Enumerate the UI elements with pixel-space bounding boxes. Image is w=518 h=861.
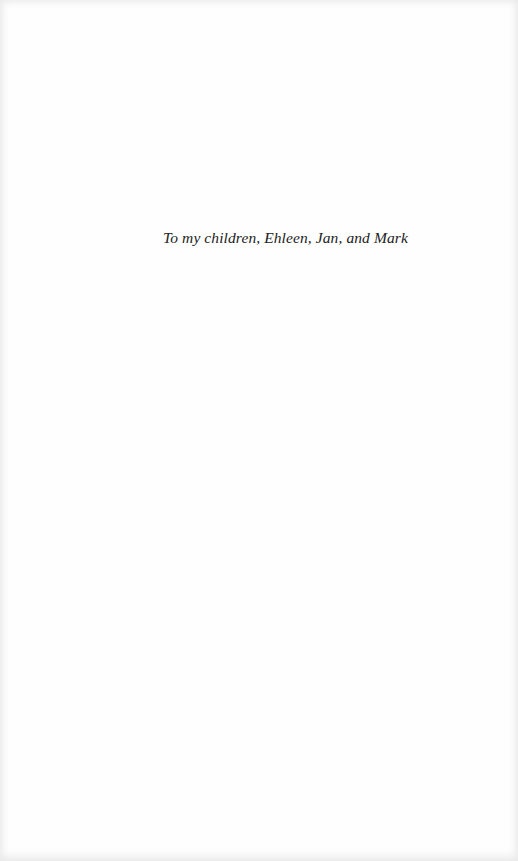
- dedication-text: To my children, Ehleen, Jan, and Mark: [163, 228, 403, 248]
- book-page: To my children, Ehleen, Jan, and Mark: [0, 0, 518, 861]
